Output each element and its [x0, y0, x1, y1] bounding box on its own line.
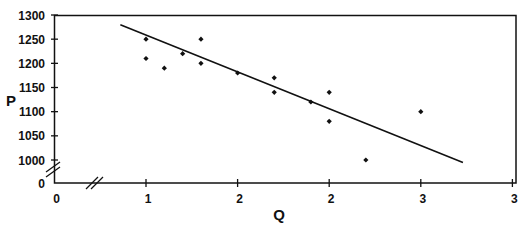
y-tick-label: 1200: [18, 57, 45, 71]
data-point-marker: [272, 90, 277, 95]
y-tick-label: 1000: [18, 154, 45, 168]
data-point-marker: [363, 157, 368, 162]
y-axis-break-icon: [46, 162, 60, 177]
data-point-marker: [418, 109, 423, 114]
x-tick-label: 3: [419, 192, 426, 206]
data-point-marker: [327, 90, 332, 95]
y-tick-label: 1100: [19, 105, 45, 119]
data-point-marker: [143, 56, 148, 61]
y-tick-label: 1300: [18, 9, 45, 23]
plot-frame: [55, 16, 517, 184]
x-tick-label: 0: [53, 192, 60, 206]
data-point-marker: [162, 66, 167, 71]
data-point-marker: [272, 75, 277, 80]
scatter-chart: 01000105011001150120012501300 012233 P Q: [0, 0, 526, 227]
trend-line: [120, 25, 463, 163]
data-point-marker: [143, 37, 148, 42]
data-point-marker: [180, 51, 185, 56]
y-tick-label: 1250: [18, 33, 45, 47]
x-tick-label: 3: [511, 192, 518, 206]
x-tick-label: 1: [145, 192, 152, 206]
x-tick-label: 2: [236, 192, 243, 206]
y-tick-label: 1050: [18, 129, 45, 143]
x-tick-label: 2: [328, 192, 335, 206]
data-points: [143, 37, 423, 163]
data-point-marker: [198, 37, 203, 42]
y-axis-title: P: [6, 92, 16, 109]
data-point-marker: [198, 61, 203, 66]
y-tick-label: 0: [38, 177, 45, 191]
x-axis-title: Q: [273, 206, 285, 223]
y-tick-label: 1150: [19, 81, 45, 95]
y-axis-ticks: 01000105011001150120012501300: [18, 9, 58, 191]
data-point-marker: [327, 119, 332, 124]
